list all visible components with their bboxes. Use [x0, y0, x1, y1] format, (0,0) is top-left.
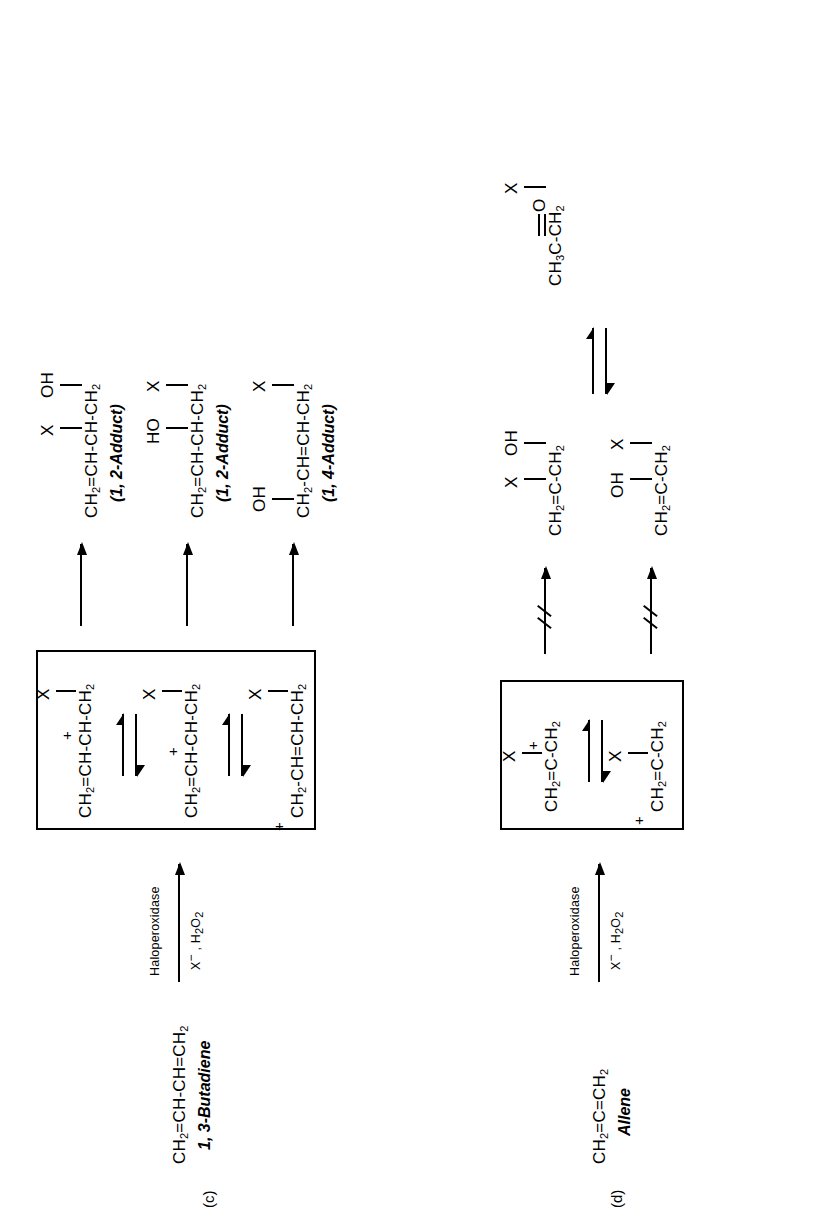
product-c-2-label: (1, 2-Adduct): [214, 404, 232, 502]
substrate-name-butadiene: 1, 3-Butadiene: [196, 1041, 214, 1150]
reagent-xh2o2-c: X− , H2O2: [184, 911, 205, 970]
product-arrow-c-1: [80, 544, 82, 626]
figure-canvas: (c) CH2=CH‑CH=CH2 1, 3-Butadiene Haloper…: [0, 0, 829, 1222]
panel-d: (d) CH2=C=CH2 Allene Haloperoxidase X− ,…: [440, 0, 829, 1222]
substrate-name-allene: Allene: [616, 1088, 634, 1136]
reaction-arrow-d: [598, 864, 600, 982]
reagent-xh2o2-d: X− , H2O2: [604, 911, 625, 970]
product-arrow-c-2: [186, 544, 188, 626]
reagent-enzyme-d: Haloperoxidase: [568, 886, 582, 976]
product-c-3-label: (1, 4-Adduct): [320, 404, 338, 502]
reaction-arrow-c: [178, 864, 180, 982]
panel-d-label: (d): [608, 1190, 625, 1208]
substrate-formula-butadiene: CH2=CH‑CH=CH2: [170, 1025, 190, 1164]
substrate-formula-allene: CH2=C=CH2: [590, 1069, 610, 1164]
product-arrow-c-3: [292, 544, 294, 626]
product-c-1-label: (1, 2-Adduct): [108, 404, 126, 502]
reagent-enzyme-c: Haloperoxidase: [148, 886, 162, 976]
panel-c: (c) CH2=CH‑CH=CH2 1, 3-Butadiene Haloper…: [0, 0, 430, 1222]
panel-c-label: (c): [200, 1191, 217, 1209]
